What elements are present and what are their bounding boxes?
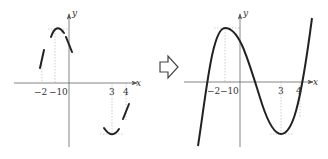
- tick-3: 3: [109, 87, 115, 97]
- tick-0: 0: [233, 86, 239, 96]
- tick-m2: −2: [207, 86, 220, 96]
- y-label: y: [242, 8, 249, 18]
- tick-4: 4: [123, 87, 129, 97]
- x-label: x: [136, 78, 141, 88]
- tick-0: 0: [62, 87, 68, 97]
- x-label: x: [313, 77, 318, 87]
- tick-m1: −1: [49, 87, 62, 97]
- tick-m1: −1: [220, 86, 233, 96]
- tick-3: 3: [278, 86, 284, 96]
- curve-segments: [40, 28, 129, 134]
- guide-lines: [214, 28, 300, 134]
- y-label: y: [71, 8, 78, 18]
- right-chart: y x −2 −1 0 3 4: [184, 8, 318, 147]
- guide-lines: [42, 29, 126, 134]
- figure: y x −2 −1 0 3 4 y x −2 −1 0 3 4: [0, 0, 328, 159]
- tick-4: 4: [296, 86, 302, 96]
- right-arrow-icon: [160, 56, 178, 78]
- left-chart: y x −2 −1 0 3 4: [14, 8, 141, 147]
- tick-m2: −2: [34, 87, 47, 97]
